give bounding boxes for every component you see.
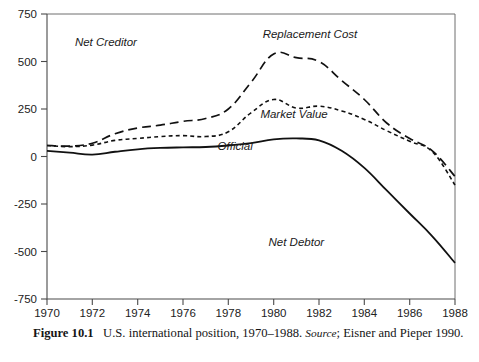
data-series-group bbox=[47, 52, 455, 263]
x-tick-label-1978: 1978 bbox=[216, 307, 242, 319]
annotation-replacement-cost: Replacement Cost bbox=[263, 28, 358, 40]
x-tick-label-1982: 1982 bbox=[306, 307, 332, 319]
x-tick-label-1980: 1980 bbox=[261, 307, 287, 319]
x-tick-label-1976: 1976 bbox=[170, 307, 196, 319]
annotation-market-value: Market Value bbox=[260, 108, 327, 120]
figure-container: 750 500 250 0 -250 -500 -750 bbox=[0, 0, 479, 362]
plot-axes bbox=[47, 14, 455, 299]
y-tick-label-neg750: -750 bbox=[14, 293, 37, 305]
figure-caption: Figure 10.1 U.S. international position,… bbox=[33, 326, 465, 341]
y-tick-label-neg500: -500 bbox=[14, 246, 37, 258]
x-tick-label-1988: 1988 bbox=[442, 307, 468, 319]
annotation-net-creditor: Net Creditor bbox=[75, 36, 138, 48]
x-axis-ticks bbox=[47, 299, 455, 305]
y-tick-label-250: 250 bbox=[18, 103, 37, 115]
caption-source-text: ; Eisner and Pieper 1990. bbox=[337, 326, 464, 340]
annotation-net-debtor: Net Debtor bbox=[269, 236, 326, 248]
caption-text: U.S. international position, 1970–1988. bbox=[103, 326, 302, 340]
y-tick-label-neg250: -250 bbox=[14, 198, 37, 210]
x-tick-label-1986: 1986 bbox=[397, 307, 423, 319]
caption-gap1 bbox=[94, 326, 103, 340]
y-axis-ticks bbox=[41, 14, 47, 299]
caption-figure-number: Figure 10.1 bbox=[33, 326, 94, 340]
y-axis-tick-labels: 750 500 250 0 -250 -500 -750 bbox=[14, 8, 37, 305]
x-tick-label-1972: 1972 bbox=[80, 307, 106, 319]
y-tick-label-0: 0 bbox=[31, 151, 37, 163]
x-tick-label-1974: 1974 bbox=[125, 307, 151, 319]
x-axis-tick-labels: 1970 1972 1974 1976 1978 1980 1982 1984 … bbox=[34, 307, 468, 319]
series-line-official bbox=[47, 138, 455, 263]
series-line-replacement-cost bbox=[47, 52, 455, 176]
x-tick-label-1984: 1984 bbox=[352, 307, 378, 319]
y-tick-label-750: 750 bbox=[18, 8, 37, 20]
chart-plot-area: 750 500 250 0 -250 -500 -750 bbox=[0, 0, 479, 320]
caption-source-label: Source bbox=[305, 327, 336, 339]
line-chart: 750 500 250 0 -250 -500 -750 bbox=[0, 0, 479, 320]
x-tick-label-1970: 1970 bbox=[34, 307, 60, 319]
annotation-official: Official bbox=[218, 140, 254, 152]
y-tick-label-500: 500 bbox=[18, 56, 37, 68]
plot-frame bbox=[47, 14, 455, 299]
